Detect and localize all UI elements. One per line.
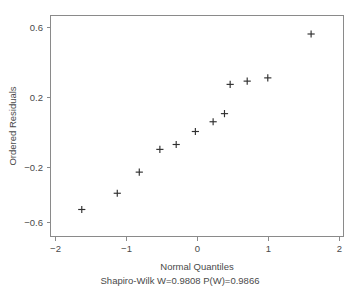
x-tick-label-0: −2 xyxy=(50,243,61,254)
plot-frame xyxy=(51,16,344,237)
data-point-marker xyxy=(210,118,217,125)
data-point-marker xyxy=(78,206,85,213)
data-point-marker xyxy=(221,110,228,117)
plot-canvas: 0.6 0.2 −0.2 −0.6 −2 −1 0 1 2 Normal Qua… xyxy=(0,0,358,293)
x-tick-label-1: −1 xyxy=(121,243,132,254)
y-tick-label-1: 0.2 xyxy=(30,92,43,103)
qq-plot-figure: 0.6 0.2 −0.2 −0.6 −2 −1 0 1 2 Normal Qua… xyxy=(0,0,358,293)
y-axis-title: Ordered Residuals xyxy=(7,86,18,165)
data-point-marker xyxy=(264,74,271,81)
data-point-marker xyxy=(173,141,180,148)
y-tick-label-0: 0.6 xyxy=(30,22,43,33)
data-point-marker xyxy=(156,146,163,153)
data-point-marker xyxy=(244,78,251,85)
y-tick-label-3: −0.6 xyxy=(24,217,43,228)
data-point-marker xyxy=(136,169,143,176)
data-point-marker xyxy=(114,190,121,197)
x-tick-label-2: 0 xyxy=(195,243,200,254)
y-axis-tick-labels: 0.6 0.2 −0.2 −0.6 xyxy=(24,22,43,228)
x-axis-tick-labels: −2 −1 0 1 2 xyxy=(50,243,342,254)
shapiro-wilk-subtitle: Shapiro-Wilk W=0.9808 P(W)=0.9866 xyxy=(101,275,260,286)
y-tick-label-2: −0.2 xyxy=(24,162,43,173)
x-tick-label-3: 1 xyxy=(266,243,271,254)
data-point-marker xyxy=(308,30,315,37)
x-tick-label-4: 2 xyxy=(337,243,342,254)
data-point-marker xyxy=(227,81,234,88)
y-axis-ticks xyxy=(47,28,51,223)
x-axis-ticks xyxy=(56,237,340,241)
x-axis-title: Normal Quantiles xyxy=(160,261,234,272)
scatter-points xyxy=(78,30,315,213)
data-point-marker xyxy=(192,128,199,135)
